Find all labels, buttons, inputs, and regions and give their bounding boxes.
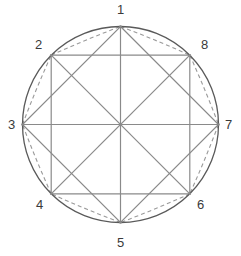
vertex-dot-1 — [119, 25, 122, 28]
dashed-arc-1-2 — [121, 27, 190, 56]
vertex-label-5: 5 — [117, 236, 124, 249]
vertex-label-1: 1 — [117, 3, 124, 16]
vertex-label-4: 4 — [36, 198, 43, 211]
vertex-dot-7 — [21, 123, 24, 126]
vertex-label-7: 7 — [225, 118, 232, 131]
dashed-arc-8-1 — [51, 27, 120, 56]
dashed-arc-5-6 — [51, 194, 120, 223]
dashed-arc-2-3 — [190, 55, 219, 124]
figure-canvas: 12345678 — [0, 0, 241, 256]
vertex-label-3: 3 — [8, 118, 15, 131]
dashed-arc-7-8 — [23, 55, 52, 124]
vertex-dot-2 — [189, 54, 192, 57]
vertex-dot-6 — [50, 193, 53, 196]
vertex-dot-3 — [217, 123, 220, 126]
dashed-arc-3-4 — [190, 125, 219, 194]
vertex-dot-8 — [50, 54, 53, 57]
vertex-dot-5 — [119, 221, 122, 224]
dashed-arc-6-7 — [23, 125, 52, 194]
vertex-label-2: 2 — [35, 38, 42, 51]
dashed-arc-4-5 — [121, 194, 190, 223]
vertex-label-8: 8 — [201, 38, 208, 51]
vertex-dot-4 — [189, 193, 192, 196]
vertex-label-6: 6 — [197, 198, 204, 211]
